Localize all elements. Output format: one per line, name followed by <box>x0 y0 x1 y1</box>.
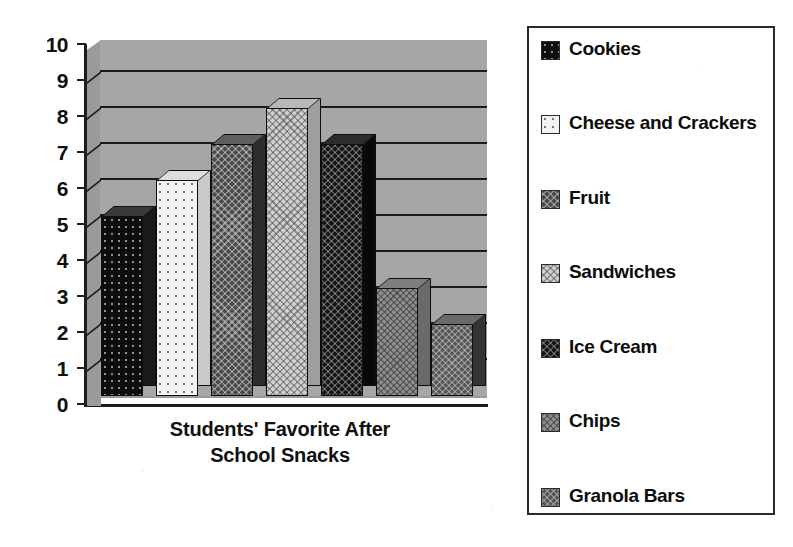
legend-item: Granola Bars <box>541 485 765 507</box>
plot-area <box>87 40 487 406</box>
legend-item-label: Chips <box>569 410 620 432</box>
y-axis-tick-label: 5 <box>28 214 68 235</box>
bar-side-face <box>198 170 211 386</box>
y-axis-tick-label: 4 <box>28 250 68 271</box>
bar-front-face <box>376 288 418 396</box>
gridline <box>100 70 487 72</box>
legend-item-label: Fruit <box>569 187 610 209</box>
y-axis-tick-label: 2 <box>28 322 68 343</box>
y-axis-labels: 109876543210 <box>12 0 68 547</box>
bar-side-face <box>143 206 156 386</box>
legend-swatch-icon <box>541 190 560 209</box>
bar-front-face <box>211 144 253 396</box>
bar-side-face <box>363 134 376 386</box>
y-axis-tick-label: 7 <box>28 142 68 163</box>
y-axis-tick-label: 6 <box>28 178 68 199</box>
bar-column <box>431 324 473 396</box>
chart-title-line-1: Students' Favorite After <box>70 416 490 442</box>
legend-swatch-icon <box>541 488 560 507</box>
legend-item: Cheese and Crackers <box>541 112 765 134</box>
legend-item: Cookies <box>541 38 765 60</box>
bar-front-face <box>156 180 198 396</box>
legend-swatch-icon <box>541 339 560 358</box>
legend-item-list: CookiesCheese and CrackersFruitSandwiche… <box>529 28 773 513</box>
legend-item-label: Granola Bars <box>569 485 685 507</box>
bar-front-face <box>321 144 363 396</box>
bar-front-face <box>101 216 143 396</box>
legend-item: Fruit <box>541 187 765 209</box>
legend-swatch-icon <box>541 41 560 60</box>
bar-column <box>321 144 363 396</box>
legend-item: Ice Cream <box>541 336 765 358</box>
bar-column <box>266 108 308 396</box>
chart-title-line-2: School Snacks <box>70 442 490 468</box>
chart-title: Students' Favorite After School Snacks <box>70 416 490 469</box>
legend-swatch-icon <box>541 413 560 432</box>
bar-front-face <box>431 324 473 396</box>
bar-side-face <box>418 278 431 386</box>
y-axis-tick-label: 1 <box>28 358 68 379</box>
bar-column <box>376 288 418 396</box>
bar-side-face <box>473 314 486 386</box>
legend-item-label: Cheese and Crackers <box>569 112 757 134</box>
legend-item: Sandwiches <box>541 261 765 283</box>
legend-item-label: Cookies <box>569 38 641 60</box>
chart-legend: CookiesCheese and CrackersFruitSandwiche… <box>527 26 775 515</box>
bar-side-face <box>253 134 266 386</box>
legend-item: Chips <box>541 410 765 432</box>
plot-floor <box>87 396 487 406</box>
bar-side-face <box>308 98 321 386</box>
y-axis-tick-label: 8 <box>28 106 68 127</box>
y-axis-tick-label: 0 <box>28 394 68 415</box>
bar-front-face <box>266 108 308 396</box>
bar-column <box>101 216 143 396</box>
y-axis-tick-label: 9 <box>28 70 68 91</box>
y-axis-tick-label: 10 <box>28 34 68 55</box>
legend-swatch-icon <box>541 115 560 134</box>
legend-swatch-icon <box>541 264 560 283</box>
legend-item-label: Ice Cream <box>569 336 657 358</box>
y-axis-tick-label: 3 <box>28 286 68 307</box>
bar-column <box>156 180 198 396</box>
legend-item-label: Sandwiches <box>569 261 676 283</box>
bar-column <box>211 144 253 396</box>
bar-chart: 109876543210 Students' Favorite After Sc… <box>0 0 515 547</box>
